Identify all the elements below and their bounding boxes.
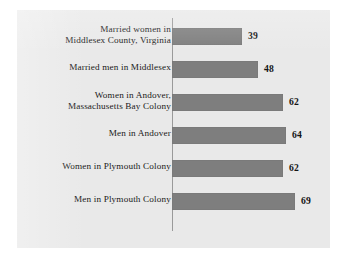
bar-value-label: 48 [264, 63, 274, 74]
category-label: Women in Andover, Massachusetts Bay Colo… [21, 90, 171, 112]
bar-value-label: 69 [301, 195, 311, 206]
bar-value-label: 39 [248, 30, 258, 41]
category-label-line2: Middlesex County, Virginia [21, 35, 171, 46]
bar [172, 160, 283, 177]
bar [172, 28, 242, 45]
category-label-line1: Married women in [21, 24, 171, 35]
chart-row: Women in Andover, Massachusetts Bay Colo… [17, 86, 330, 119]
bar-chart-plot-area: Married women in Middlesex County, Virgi… [17, 10, 330, 248]
chart-row: Men in Plymouth Colony 69 [17, 185, 330, 218]
bar [172, 127, 286, 144]
chart-row: Women in Plymouth Colony 62 [17, 152, 330, 185]
bar-container: 69 [172, 193, 330, 210]
category-label: Married men in Middlesex [21, 62, 171, 73]
category-label: Married women in Middlesex County, Virgi… [21, 24, 171, 46]
bar-container: 62 [172, 160, 330, 177]
bar-value-label: 62 [289, 96, 299, 107]
bar-container: 62 [172, 94, 330, 111]
category-label: Men in Andover [21, 128, 171, 139]
chart-row: Married men in Middlesex 48 [17, 53, 330, 86]
category-label-line1: Women in Andover, [21, 90, 171, 101]
category-label-line2: Massachusetts Bay Colony [21, 101, 171, 112]
bar-container: 48 [172, 61, 330, 78]
chart-frame: Married women in Middlesex County, Virgi… [17, 10, 330, 248]
bar-value-label: 62 [289, 162, 299, 173]
bar-value-label: 64 [292, 129, 302, 140]
bar [172, 94, 283, 111]
bar-container: 64 [172, 127, 330, 144]
category-label: Women in Plymouth Colony [21, 161, 171, 172]
chart-row: Men in Andover 64 [17, 119, 330, 152]
bar-container: 39 [172, 28, 330, 45]
category-label-line1: Men in Plymouth Colony [21, 194, 171, 205]
bar [172, 193, 295, 210]
chart-row: Married women in Middlesex County, Virgi… [17, 20, 330, 53]
category-label-line1: Women in Plymouth Colony [21, 161, 171, 172]
category-label-line1: Married men in Middlesex [21, 62, 171, 73]
bar [172, 61, 258, 78]
category-label-line1: Men in Andover [21, 128, 171, 139]
category-label: Men in Plymouth Colony [21, 194, 171, 205]
